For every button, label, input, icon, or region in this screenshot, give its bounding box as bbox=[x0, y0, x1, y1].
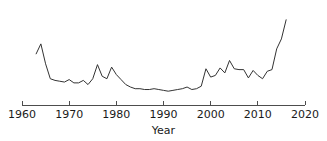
x-axis-tick-labels: 1960197019801990200020102020 bbox=[8, 108, 319, 121]
chart-figure: 1960197019801990200020102020 Year bbox=[0, 0, 327, 141]
x-axis-line bbox=[22, 101, 305, 105]
data-series-layer bbox=[36, 20, 286, 91]
x-axis-title: Year bbox=[151, 124, 176, 137]
x-tick-label-2010: 2010 bbox=[244, 108, 272, 121]
x-tick-label-1980: 1980 bbox=[102, 108, 130, 121]
data-line-value bbox=[36, 20, 286, 91]
x-tick-label-1990: 1990 bbox=[150, 108, 178, 121]
x-tick-label-1970: 1970 bbox=[55, 108, 83, 121]
x-tick-label-2020: 2020 bbox=[291, 108, 319, 121]
x-tick-label-1960: 1960 bbox=[8, 108, 36, 121]
x-tick-label-2000: 2000 bbox=[197, 108, 225, 121]
x-axis: 1960197019801990200020102020 bbox=[8, 101, 319, 121]
line-chart: 1960197019801990200020102020 Year bbox=[0, 0, 327, 141]
